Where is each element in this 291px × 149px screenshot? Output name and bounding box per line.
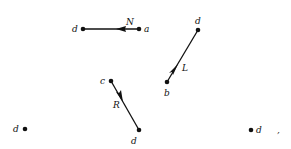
node-label: d bbox=[256, 125, 262, 135]
arrowhead-N-icon bbox=[116, 26, 126, 32]
edge-label-L: L bbox=[181, 63, 188, 73]
node-b: b bbox=[164, 80, 170, 98]
node-d-3: d bbox=[131, 128, 141, 146]
edge-label-N: N bbox=[125, 17, 135, 27]
node-d-4: d bbox=[13, 124, 27, 134]
node-label: c bbox=[100, 76, 105, 86]
edge-R: R bbox=[111, 81, 139, 130]
node-label: b bbox=[164, 88, 170, 98]
node-d-2: d bbox=[195, 16, 201, 32]
trailing-comma: , bbox=[277, 125, 280, 135]
vector-diagram: N L R d a d b c d d d bbox=[0, 0, 291, 149]
node-label: d bbox=[72, 24, 78, 34]
node-d-5: d bbox=[249, 125, 262, 135]
edge-label-R: R bbox=[112, 100, 120, 110]
node-label: d bbox=[13, 124, 19, 134]
edge-L: L bbox=[167, 30, 198, 82]
node-label: d bbox=[195, 16, 201, 26]
node-label: a bbox=[144, 24, 149, 34]
edge-N: N bbox=[83, 17, 139, 32]
node-d-1: d bbox=[72, 24, 85, 34]
node-c: c bbox=[100, 76, 113, 86]
node-label: d bbox=[131, 136, 137, 146]
arrowhead-L-icon bbox=[169, 64, 178, 75]
node-a: a bbox=[137, 24, 150, 34]
